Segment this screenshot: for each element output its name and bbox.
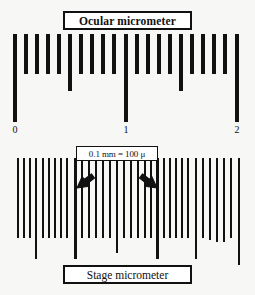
ocular-axis-label: 0 bbox=[8, 124, 22, 135]
measurement-arrows bbox=[0, 158, 255, 188]
ocular-tick bbox=[179, 34, 183, 91]
ocular-tick bbox=[57, 34, 61, 74]
ocular-tick bbox=[201, 34, 205, 74]
arrow-left-icon bbox=[77, 174, 95, 188]
ocular-tick bbox=[157, 34, 161, 74]
ocular-tick bbox=[223, 34, 227, 74]
ocular-tick bbox=[235, 34, 239, 122]
arrow-group-svg bbox=[0, 158, 255, 190]
ocular-tick bbox=[24, 34, 28, 74]
ocular-micrometer-scale bbox=[0, 34, 255, 124]
ocular-axis-labels: 012 bbox=[0, 124, 255, 138]
ocular-micrometer-title-box: Ocular micrometer bbox=[63, 11, 192, 30]
ocular-tick bbox=[212, 34, 216, 74]
arrow-right-icon bbox=[139, 174, 157, 188]
scale-callout-box: 0.1 mm = 100 μ bbox=[76, 146, 158, 161]
ocular-tick bbox=[112, 34, 116, 74]
ocular-axis-label: 1 bbox=[119, 124, 133, 135]
micrometer-figure: Ocular micrometer 012 0.1 mm = 100 μ Sta… bbox=[0, 0, 255, 295]
stage-micrometer-title-box: Stage micrometer bbox=[63, 265, 192, 284]
ocular-tick bbox=[79, 34, 83, 74]
ocular-axis-label: 2 bbox=[230, 124, 244, 135]
ocular-tick bbox=[101, 34, 105, 74]
ocular-tick bbox=[13, 34, 17, 122]
ocular-tick bbox=[68, 34, 72, 91]
ocular-tick bbox=[135, 34, 139, 74]
ocular-tick bbox=[168, 34, 172, 74]
ocular-tick bbox=[146, 34, 150, 74]
ocular-tick bbox=[190, 34, 194, 74]
ocular-tick bbox=[90, 34, 94, 74]
ocular-tick bbox=[124, 34, 128, 122]
ocular-tick bbox=[46, 34, 50, 74]
ocular-tick bbox=[35, 34, 39, 74]
